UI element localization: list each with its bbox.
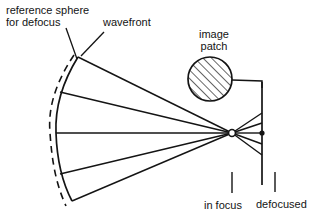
image-patch-connector: [232, 80, 262, 88]
reference-sphere-label: reference sphere for defocus: [6, 4, 89, 28]
diverging-ray-fan: [232, 113, 262, 155]
defocus-spot-marker: [259, 130, 264, 135]
ray-right-2: [232, 123, 262, 133]
ray-right-1: [232, 113, 262, 133]
focus-point-marker: [229, 130, 236, 137]
wavefront-leader-line: [81, 32, 104, 56]
image-patch-label: image patch: [191, 28, 237, 52]
diagram-vector-layer: [0, 0, 312, 224]
ray-left-5: [72, 133, 232, 201]
reference-sphere-leader-line: [66, 28, 77, 59]
wavefront-arc: [56, 57, 78, 201]
reference-sphere-arc: [50, 55, 74, 206]
in-focus-label: in focus: [204, 199, 242, 211]
optics-diagram-canvas: reference sphere for defocus wavefront i…: [0, 0, 312, 224]
ray-left-4: [60, 133, 232, 174]
ray-right-5: [232, 133, 262, 155]
image-patch-circle: [188, 57, 232, 101]
ray-right-4: [232, 133, 262, 144]
defocused-label: defocused: [256, 198, 307, 210]
wavefront-label: wavefront: [103, 16, 151, 28]
